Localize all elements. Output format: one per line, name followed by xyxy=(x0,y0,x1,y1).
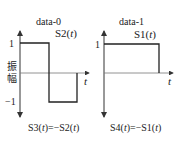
panel-title: data-1 xyxy=(119,16,144,27)
panel-title: data-0 xyxy=(36,16,61,27)
signal-label: S2(t) xyxy=(55,27,77,40)
y-axis-label-1: 振 xyxy=(7,60,17,72)
y-tick-1: 1 xyxy=(95,39,100,50)
panel-data-1: data-1 S1(t) 1 t S4(t)=−S1(t) xyxy=(95,16,173,134)
panel-data-0: data-0 S2(t) 1 −1 振 幅 t S3(t)=−S2(t) xyxy=(5,16,89,134)
y-tick-minus-1: −1 xyxy=(5,96,16,107)
waveform-s2 xyxy=(20,43,77,102)
waveform-diagram: data-0 S2(t) 1 −1 振 幅 t S3(t)=−S2(t) dat… xyxy=(0,0,180,142)
y-tick-1: 1 xyxy=(9,38,14,49)
y-axis-label-2: 幅 xyxy=(7,72,17,84)
complement-label: S4(t)=−S1(t) xyxy=(110,122,161,134)
waveform-s1 xyxy=(104,44,159,73)
x-axis-label: t xyxy=(168,75,172,87)
x-axis-label: t xyxy=(84,75,88,87)
signal-label: S1(t) xyxy=(134,28,156,41)
complement-label: S3(t)=−S2(t) xyxy=(28,122,79,134)
